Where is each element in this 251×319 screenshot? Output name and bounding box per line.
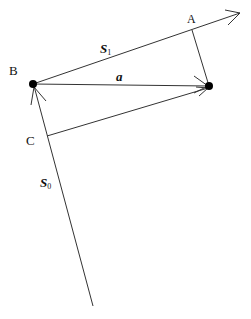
vector-s0 (31, 86, 93, 306)
vector-c-p (47, 87, 208, 136)
point-b (29, 80, 37, 88)
point-p (205, 82, 213, 90)
label-c-point: C (26, 133, 35, 148)
label-a-point: A (187, 12, 196, 26)
label-b-point: B (9, 63, 18, 78)
label-a-vector: a (116, 69, 123, 84)
label-s1: S1 (100, 41, 111, 57)
diagram-canvas: A B C S1 a S0 (0, 0, 251, 319)
perpendicular-a-p (192, 30, 209, 86)
vector-s1 (33, 10, 240, 84)
label-s0: S0 (40, 175, 51, 191)
